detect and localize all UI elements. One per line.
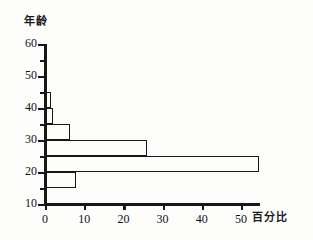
bar bbox=[45, 108, 53, 124]
x-axis-tick bbox=[202, 203, 204, 210]
y-axis-tick-label: 60 bbox=[11, 36, 37, 51]
y-axis-minor-tick bbox=[40, 188, 46, 190]
y-axis-minor-tick bbox=[40, 124, 46, 126]
bar bbox=[45, 140, 147, 156]
y-axis-tick-label: 10 bbox=[11, 196, 37, 211]
y-axis-title: 年龄 bbox=[24, 12, 48, 28]
y-axis-tick bbox=[38, 172, 46, 174]
bar bbox=[45, 124, 70, 140]
x-axis-tick bbox=[241, 203, 243, 210]
x-axis-tick-label: 30 bbox=[150, 212, 176, 227]
y-axis-minor-tick bbox=[40, 92, 46, 94]
y-axis-tick bbox=[38, 108, 46, 110]
x-axis-tick bbox=[123, 203, 125, 210]
y-axis-tick bbox=[38, 44, 46, 46]
y-axis-tick-label: 30 bbox=[11, 132, 37, 147]
bar bbox=[45, 156, 259, 172]
x-axis-tick-label: 50 bbox=[228, 212, 254, 227]
x-axis-line bbox=[44, 203, 260, 206]
x-axis-tick bbox=[45, 203, 47, 210]
y-axis-minor-tick bbox=[40, 60, 46, 62]
y-axis-tick-label: 20 bbox=[11, 164, 37, 179]
plot-area bbox=[45, 44, 260, 204]
x-axis-tick bbox=[84, 203, 86, 210]
x-axis-tick-label: 0 bbox=[32, 212, 58, 227]
y-axis-minor-tick bbox=[40, 156, 46, 158]
y-axis-tick-label: 50 bbox=[11, 68, 37, 83]
bar bbox=[45, 172, 76, 188]
x-axis-tick-label: 40 bbox=[189, 212, 215, 227]
y-axis-tick bbox=[38, 140, 46, 142]
x-axis-tick-label: 20 bbox=[110, 212, 136, 227]
x-axis-tick bbox=[163, 203, 165, 210]
y-axis-tick bbox=[38, 76, 46, 78]
x-axis-title: 百分比 bbox=[252, 208, 288, 224]
y-axis-tick-label: 40 bbox=[11, 100, 37, 115]
x-axis-tick-label: 10 bbox=[71, 212, 97, 227]
bar bbox=[45, 92, 51, 108]
age-percentage-bar-chart: 年龄 百分比 60504030201001020304050 bbox=[0, 0, 313, 240]
